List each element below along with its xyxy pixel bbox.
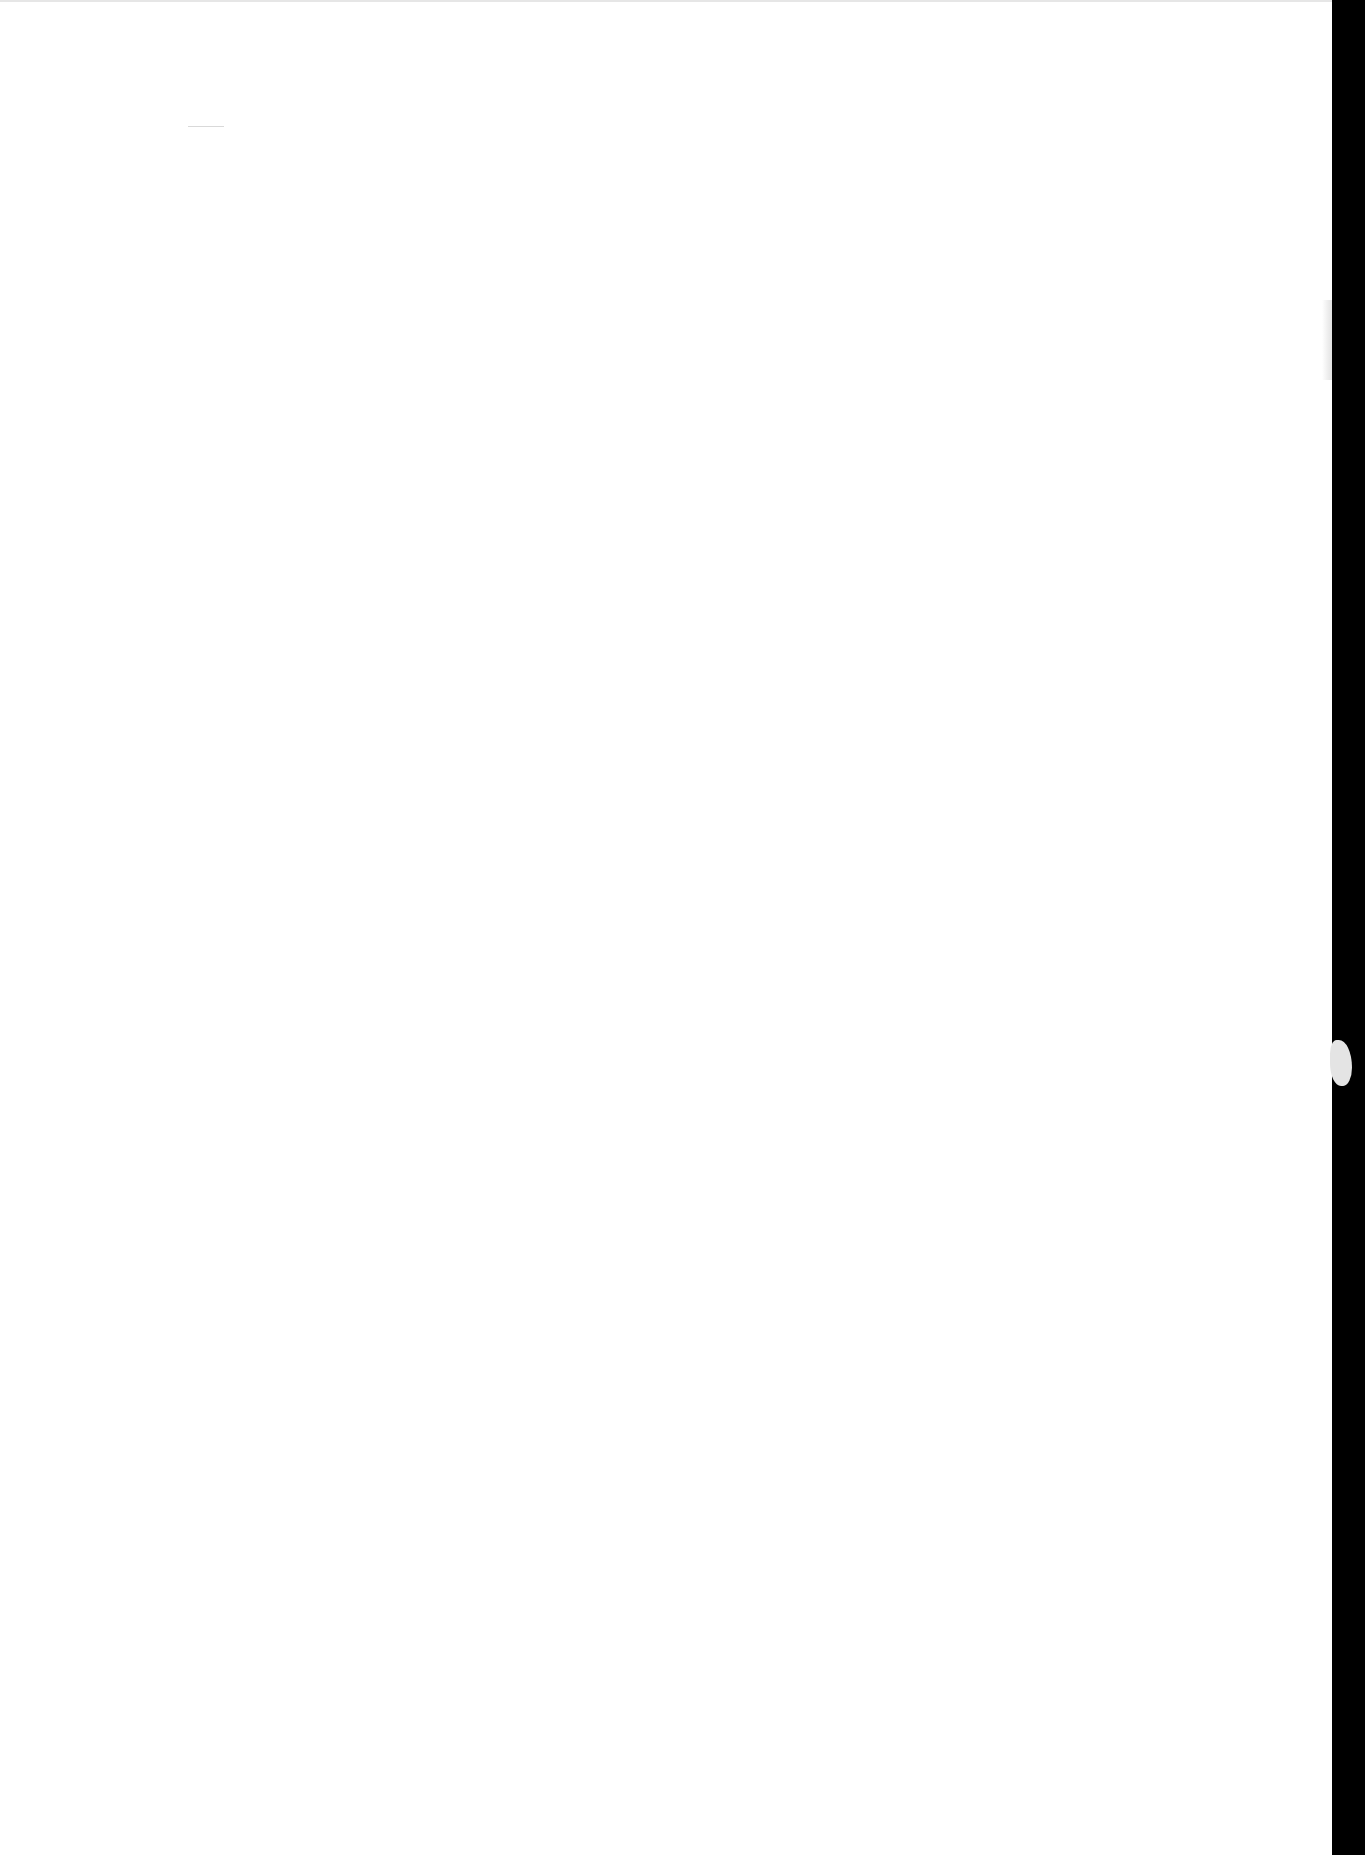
paper-tear: [1330, 1040, 1352, 1086]
blank-page: [0, 0, 1332, 1855]
bleed-line: [700, 366, 1100, 424]
page-edge-shadow: [1322, 300, 1332, 380]
bleed-line: [700, 250, 1100, 308]
pencil-mark: [188, 126, 224, 127]
bleed-line: [700, 308, 1100, 366]
page-top-edge: [0, 0, 1332, 2]
bleed-through-text: [700, 250, 1100, 424]
